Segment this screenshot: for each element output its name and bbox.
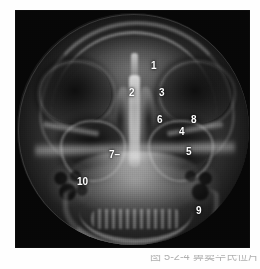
annotation-label-8: 8 xyxy=(191,115,197,125)
figure-page: 12368457–109 图 5-2-4 鼻窦华氏位片 xyxy=(0,0,260,269)
annotation-label-4: 4 xyxy=(179,127,185,137)
annotation-label-1: 1 xyxy=(151,61,157,71)
annotation-label-10: 10 xyxy=(77,177,88,187)
annotation-label-2: 2 xyxy=(129,88,135,98)
annotation-label-6: 6 xyxy=(157,115,163,125)
annotation-label-5: 5 xyxy=(186,147,192,157)
radiograph-image: 12368457–109 xyxy=(15,10,250,248)
annotation-label-9: 9 xyxy=(196,206,202,216)
figure-caption: 图 5-2-4 鼻窦华氏位片 xyxy=(150,255,260,268)
annotation-label-3: 3 xyxy=(159,88,165,98)
figure-caption-text: 图 5-2-4 鼻窦华氏位片 xyxy=(150,255,259,263)
film-border xyxy=(15,10,250,248)
annotation-label-7: 7– xyxy=(109,150,120,160)
